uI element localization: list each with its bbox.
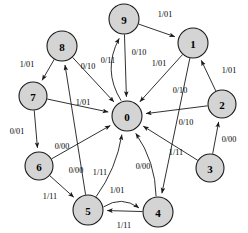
transition-edge (213, 122, 219, 154)
state-node-0[interactable]: 0 (112, 101, 142, 131)
state-node-5[interactable]: 5 (73, 195, 103, 225)
state-node-label: 8 (59, 41, 65, 53)
state-transition-diagram: 0123456789 1/010/100/111/010/101/010/100… (0, 0, 248, 233)
transition-label: 1/01 (222, 66, 237, 75)
state-node-label: 9 (121, 14, 127, 26)
transition-edge (146, 106, 208, 114)
transition-edge (139, 24, 175, 37)
transition-edge (65, 65, 86, 195)
state-node-4[interactable]: 4 (143, 197, 173, 227)
state-node-label: 3 (207, 163, 213, 175)
transition-label: 1/11 (169, 148, 183, 157)
state-node-2[interactable]: 2 (208, 90, 236, 118)
state-node-1[interactable]: 1 (178, 28, 208, 58)
state-node-9[interactable]: 9 (109, 4, 139, 34)
transition-edge (201, 60, 216, 91)
transition-label: 1/11 (117, 221, 131, 230)
transition-label: 0/11 (101, 56, 115, 65)
transition-label: 1/01 (158, 10, 173, 19)
state-node-label: 6 (36, 161, 42, 173)
transition-label: 0/10 (81, 62, 96, 71)
transition-edge (124, 34, 126, 96)
transition-edge (111, 38, 121, 100)
transition-label: 0/10 (173, 86, 188, 95)
state-node-label: 4 (155, 207, 161, 219)
transition-edge (104, 201, 139, 208)
transition-label: 1/01 (20, 60, 35, 69)
transition-label: 0/10 (132, 48, 147, 57)
transition-edge (107, 211, 142, 212)
transition-label: 1/01 (76, 98, 91, 107)
transition-label: 1/11 (93, 168, 107, 177)
state-node-label: 2 (219, 99, 225, 111)
state-node-7[interactable]: 7 (19, 82, 47, 110)
state-node-6[interactable]: 6 (25, 152, 53, 180)
transition-label: 0/00 (69, 166, 84, 175)
transition-label: 0/00 (222, 135, 237, 144)
state-node-8[interactable]: 8 (47, 31, 77, 61)
state-node-3[interactable]: 3 (196, 154, 224, 182)
state-node-label: 5 (85, 205, 91, 217)
state-node-label: 0 (124, 111, 130, 123)
diagram-canvas: 0123456789 1/010/100/111/010/101/010/100… (0, 0, 248, 233)
transition-label: 1/11 (43, 192, 57, 201)
transition-edge (42, 59, 54, 80)
transition-label: 0/00 (136, 162, 151, 171)
transition-label: 0/00 (55, 142, 70, 151)
transition-label: 0/01 (10, 127, 25, 136)
transition-label: 1/01 (152, 59, 167, 68)
transition-edge (34, 110, 37, 147)
state-node-label: 7 (30, 91, 36, 103)
state-node-label: 1 (190, 38, 196, 50)
transition-label: 1/01 (110, 186, 125, 195)
transition-label: 0/10 (179, 118, 194, 127)
